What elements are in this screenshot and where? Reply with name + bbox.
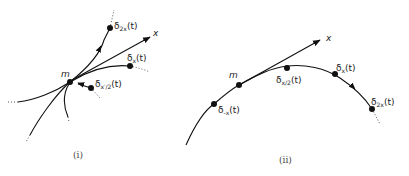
point-delta-2x (107, 25, 113, 31)
panel-i: m x δ2x(t) δx(t) δx′/2(t) (i) (8, 10, 159, 160)
label-m: m (61, 69, 70, 79)
flow-curve-lower (30, 82, 70, 135)
label-delta-2x: δ2x(t) (371, 97, 394, 108)
caption-i: (i) (73, 150, 83, 160)
point-delta-neg-x (211, 101, 217, 107)
flow-curve-left (18, 82, 70, 102)
flow-curve-2x (70, 28, 110, 82)
point-delta-x-half (284, 65, 290, 71)
point-delta-neg-x-half (88, 85, 94, 91)
label-delta-x: δx(t) (336, 63, 356, 74)
flow-curve-down (64, 84, 69, 117)
label-delta-2x: δ2x(t) (114, 21, 137, 32)
label-delta-x-half: δx/2(t) (276, 75, 301, 86)
diagram-canvas: m x δ2x(t) δx(t) δx′/2(t) (i) m x δ-x(t)… (0, 0, 409, 176)
label-x: x (325, 33, 332, 43)
caption-ii: (ii) (279, 155, 292, 165)
point-m (67, 79, 73, 85)
label-delta-neg-x-half: δx′/2(t) (95, 79, 122, 90)
label-delta-neg-x: δ-x(t) (218, 105, 240, 116)
label-delta-x: δx(t) (127, 53, 147, 64)
label-m: m (229, 70, 238, 80)
label-x: x (152, 28, 159, 38)
panel-ii: m x δ-x(t) δx/2(t) δx(t) δ2x(t) (ii) (186, 33, 394, 165)
point-m (236, 82, 242, 88)
